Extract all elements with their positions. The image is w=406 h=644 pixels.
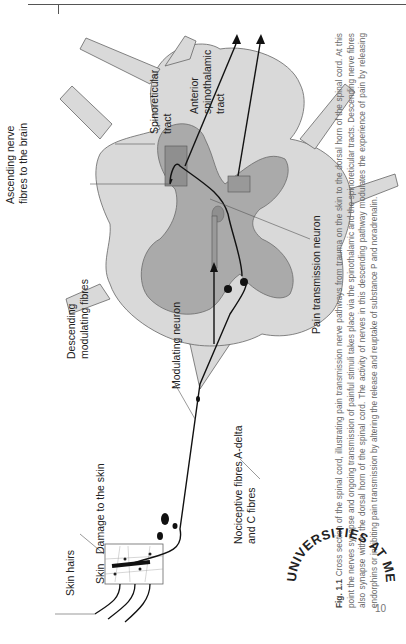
label-pain-transmission-neuron: Pain transmission neuron [310,216,322,334]
label-anterior-3: tract [214,94,226,114]
label-anterior-2: spinothalamic [201,50,213,114]
skin-hairs [95,584,150,622]
label-nociceptive-1: Nociceptive fibres A-delta [232,426,244,544]
arrow-ascending-1 [232,34,241,44]
label-spinoreticular-2: tract [161,114,173,134]
label-damage: Damage to the skin [94,464,106,554]
label-skin-hairs: Skin hairs [64,550,76,596]
label-descending-1: Descending [65,304,77,359]
page-number: 10 [375,603,386,614]
label-descending-2: modulating fibres [78,279,90,359]
stamp-text: UNIVERSITIES AT MEDWAY LIBRARY [276,512,398,583]
skin-block [105,544,163,584]
book-page: Skin hairs Skin Damage to the skin Desce… [0,0,406,644]
library-stamp: UNIVERSITIES AT MEDWAY LIBRARY [276,512,406,642]
label-skin: Skin [94,564,106,584]
label-ascending-1: Ascending nerve [4,126,16,204]
label-ascending-2: fibres to the brain [17,123,29,204]
label-anterior-1: Anterior [188,77,200,114]
label-modulating-neuron: Modulating neuron [170,302,182,389]
label-nociceptive-2: and C fibres [245,487,257,544]
svg-text:UNIVERSITIES AT MEDWAY LIBRARY: UNIVERSITIES AT MEDWAY LIBRARY [276,512,398,583]
label-spinoreticular-1: Spinoreticular [148,70,160,134]
damage-droplets [157,396,200,540]
arrow-ascending-2 [256,34,265,44]
